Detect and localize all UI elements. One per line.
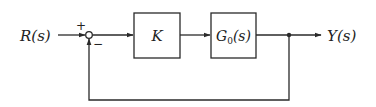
output-label-y: Y(s) [327,27,356,45]
summing-junction [86,32,93,39]
plus-sign: + [76,19,86,33]
controller-label: K [150,27,163,45]
controller-block: K [134,13,180,58]
block-diagram: R(s) + − K G0(s) Y(s) [0,0,376,107]
plant-label: G0(s) [216,28,251,46]
plant-block: G0(s) [211,13,256,58]
minus-sign: − [93,37,103,51]
feedback-path [89,35,289,100]
input-label-r: R(s) [19,27,51,45]
